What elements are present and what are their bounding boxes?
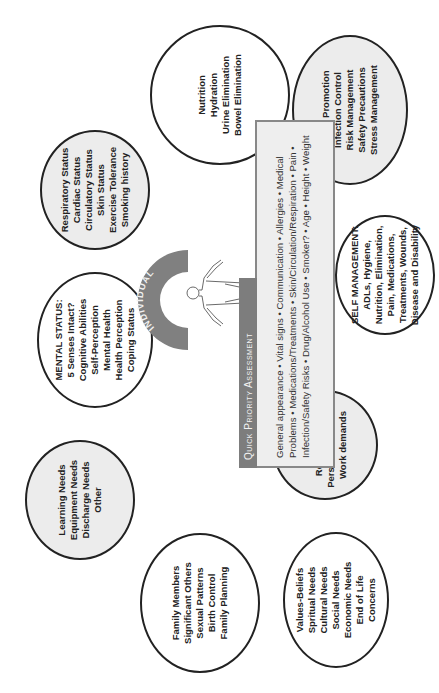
ellipse-text: Skin Status <box>95 164 107 216</box>
ellipse-text: SELF MANAGEMENT: <box>349 226 361 324</box>
care-planning-diagram: Nutrition Hydration Urine Elimination Bo… <box>0 0 439 693</box>
ellipse-learning-needs: Learning Needs Equipment Needs Discharge… <box>25 440 135 560</box>
ellipse-text: Discharge Needs <box>80 461 92 538</box>
quick-priority-header: Quick Priority Assessment <box>239 278 257 468</box>
ellipse-text: Self-Perception <box>89 305 101 375</box>
quick-priority-line: General appearance • Vital signs • Commu… <box>273 128 286 458</box>
ellipse-text: Cognitive Abilities <box>77 299 89 382</box>
ellipse-text: Economic Needs <box>342 562 354 639</box>
ellipse-text: Health Perception <box>113 300 125 381</box>
ellipse-respiratory: Respiratory Status Cardiac Status Circul… <box>40 130 150 250</box>
ellipse-text: Cardiac Status <box>71 157 83 224</box>
ellipse-text: Sexual Patterns <box>194 567 206 638</box>
ellipse-text: Respiratory Status <box>59 148 71 232</box>
ellipse-text: Spritual Needs <box>306 567 318 634</box>
ellipse-text: Circulatory Status <box>83 149 95 231</box>
ellipse-text: Birth Control <box>206 574 218 633</box>
ellipse-text: Treatments, Wounds, <box>397 227 409 323</box>
ellipse-family: Family Members Significant Others Sexual… <box>140 533 260 673</box>
ellipse-text: Family Members <box>170 566 182 640</box>
ellipse-self-management: SELF MANAGEMENT: ADLs, Hygiene, Nutritio… <box>335 215 435 335</box>
ellipse-text: Bowel Elimination <box>232 54 244 136</box>
ellipse-text: Hydration <box>208 73 220 117</box>
ellipse-text: Urine Elimination <box>220 56 232 134</box>
ellipse-text: Concerns <box>366 578 378 622</box>
quick-priority-line: Problems • Medications/Treatments • Skin… <box>286 128 299 458</box>
ellipse-text: Cultural Needs <box>318 566 330 633</box>
ellipse-text: 5 Senses Intact? <box>65 303 77 378</box>
ellipse-text: Significant Others <box>182 562 194 644</box>
ellipse-text: Equipment Needs <box>68 460 80 540</box>
quick-priority-body: General appearance • Vital signs • Commu… <box>273 128 312 458</box>
ellipse-text: Social Needs <box>330 570 342 629</box>
ellipse-values: Values-Beliefs Spritual Needs Cultural N… <box>283 532 389 668</box>
ellipse-text: Other <box>92 487 104 512</box>
individual-arc: INDIVIDUAL <box>130 250 190 350</box>
ellipse-text: Exercise Tolerance <box>107 147 119 233</box>
ellipse-text: Nutrition, Elimination, <box>373 226 385 325</box>
ellipse-text: Pain, Medications, <box>385 234 397 317</box>
ellipse-text: Learning Needs <box>56 464 68 535</box>
ellipse-text: Work demands <box>337 411 349 479</box>
ellipse-text: End of Life <box>354 575 366 624</box>
ellipse-text: Mental Health <box>101 309 113 371</box>
ellipse-text: Nutrition <box>196 75 208 115</box>
ellipse-text: Values-Beliefs <box>294 568 306 632</box>
quick-priority-assessment-box: Quick Priority Assessment General appear… <box>255 120 335 468</box>
ellipse-text: Smoking history <box>119 153 131 227</box>
ellipse-text: Family Planning <box>218 567 230 640</box>
quick-priority-line: Infection/Safety Risks • Drug/Alcohol Us… <box>299 128 312 458</box>
ellipse-text: Safety Precautions <box>356 67 368 153</box>
ellipse-text: Risk Management <box>344 70 356 151</box>
ellipse-text: ADLs, Hygiene, <box>361 240 373 310</box>
ellipse-text: MENTAL STATUS: <box>53 299 65 380</box>
ellipse-text: Disease and Disability <box>409 225 421 325</box>
ellipse-text: Stress Management <box>368 65 380 155</box>
